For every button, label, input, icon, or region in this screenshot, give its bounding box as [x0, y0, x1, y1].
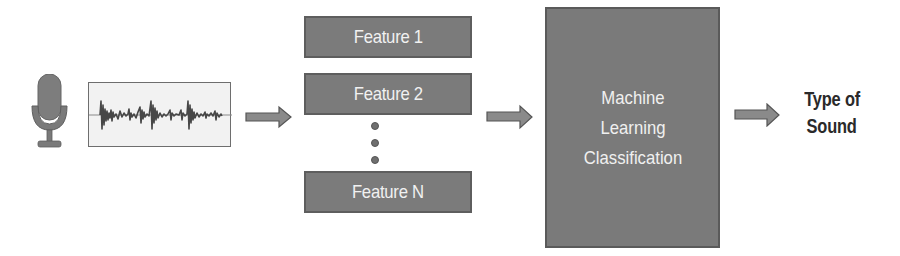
audio-waveform-icon: [88, 82, 231, 147]
feature-box-1: Feature 1: [304, 16, 472, 58]
output-line-1: Type of: [804, 86, 860, 113]
output-line-2: Sound: [807, 113, 857, 140]
feature-label: Feature 1: [353, 26, 422, 48]
classifier-line-3: Classification: [583, 143, 682, 173]
feature-box-2: Feature 2: [304, 73, 472, 115]
output-label: Type of Sound: [790, 86, 874, 140]
arrow-right-icon: [245, 105, 293, 129]
arrow-right-icon: [734, 103, 782, 127]
feature-label: Feature N: [352, 181, 424, 203]
ellipsis-dot-icon: [371, 156, 379, 164]
machine-learning-classification-box: Machine Learning Classification: [545, 7, 720, 248]
microphone-icon: [30, 74, 70, 150]
ellipsis-dot-icon: [371, 122, 379, 130]
arrow-right-icon: [486, 104, 534, 130]
classifier-line-1: Machine: [601, 83, 664, 113]
waveform-trace: [100, 101, 222, 129]
ellipsis-dot-icon: [371, 139, 379, 147]
feature-label: Feature 2: [353, 83, 422, 105]
feature-box-n: Feature N: [304, 171, 472, 213]
classifier-line-2: Learning: [600, 113, 665, 143]
